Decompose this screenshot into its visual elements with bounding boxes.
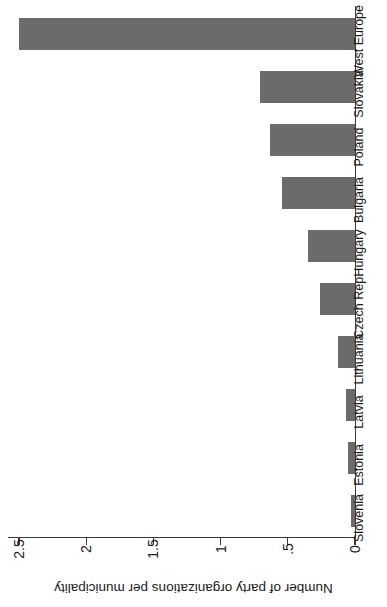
bar	[19, 18, 355, 50]
bar	[308, 230, 355, 262]
category-label: West Europe	[352, 5, 366, 77]
value-axis-title: Number of party organizations per munici…	[0, 577, 387, 601]
category-label: Slovakia	[352, 71, 366, 118]
bar	[270, 124, 355, 156]
value-axis-tick-label: 2.5	[11, 539, 27, 558]
value-axis-tick-label: 0	[347, 545, 363, 553]
bar-chart-figure: SloveniaEstoniaLatviaLithuaniaCzech Rep.…	[0, 0, 387, 607]
bar	[320, 283, 355, 315]
value-axis-tick-label: 1.5	[145, 539, 161, 558]
category-label: Hungary	[352, 229, 366, 276]
category-label: Latvia	[352, 395, 366, 428]
value-axis-tick-label: .5	[280, 543, 296, 555]
category-label: Lithuania	[352, 333, 366, 384]
bar	[282, 177, 355, 209]
bar	[260, 71, 355, 103]
category-label: Bulgaria	[352, 177, 366, 223]
category-label: Estonia	[352, 444, 366, 486]
value-axis-line	[8, 537, 356, 538]
value-axis-tick-label: 2	[78, 545, 94, 553]
category-label: Czech Rep.	[352, 273, 366, 338]
category-label: Slovenia	[352, 494, 366, 542]
value-axis-tick-label: 1	[213, 545, 229, 553]
category-label: Poland	[352, 128, 366, 167]
